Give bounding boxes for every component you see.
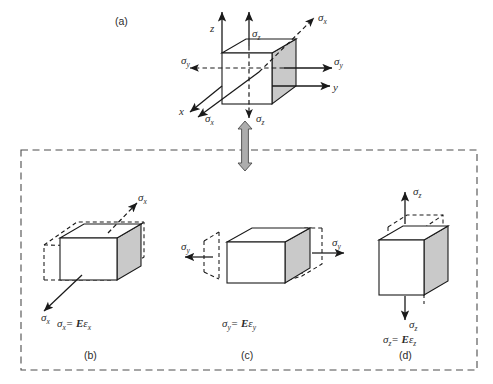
panel-b-sigma-x-upper-label: σx bbox=[138, 192, 147, 206]
panel-c-sigma-y-right-label: σy bbox=[332, 237, 341, 251]
x-axis-arrow bbox=[190, 86, 222, 112]
vertical-double-arrow-connector bbox=[238, 121, 252, 171]
panel-c-cube bbox=[185, 228, 344, 283]
panel-b-sigma-x-lower-label: σx bbox=[41, 312, 50, 326]
figure-root: (a) z y x σx σz σy σy σx σz σx σx σx= Eε… bbox=[0, 0, 493, 384]
y-axis-label: y bbox=[333, 82, 338, 93]
panel-d-label: (d) bbox=[399, 350, 412, 361]
panel-c-sigma-y-left-label: σy bbox=[181, 241, 190, 255]
panel-b-label: (b) bbox=[84, 350, 97, 361]
panel-b-cube bbox=[44, 203, 144, 311]
sigma-y-left-label: σy bbox=[181, 55, 190, 69]
sigma-y-right-label: σy bbox=[334, 56, 343, 70]
panel-d-sigma-z-top-label: σz bbox=[413, 186, 421, 200]
panel-c-label: (c) bbox=[241, 350, 253, 361]
sigma-x-bottom-left-label: σx bbox=[205, 113, 214, 127]
panel-d-sigma-z-bottom-label: σz bbox=[409, 319, 417, 333]
cube-d-front-face bbox=[379, 240, 424, 295]
panel-c-equation: σy= Eεy bbox=[222, 318, 256, 332]
z-axis-label: z bbox=[210, 23, 214, 34]
panel-d-cube bbox=[379, 192, 448, 320]
sigma-z-bottom-label: σz bbox=[256, 113, 264, 127]
sigma-x-top-right-label: σx bbox=[318, 12, 327, 26]
panel-b-equation: σx= Eεx bbox=[57, 318, 91, 332]
panel-a-label: (a) bbox=[115, 16, 128, 27]
cube-b-front-face bbox=[60, 238, 117, 280]
cube-a-front-face bbox=[222, 53, 272, 104]
sigma-z-top-label: σz bbox=[252, 28, 260, 42]
x-axis-label: x bbox=[179, 106, 184, 117]
panel-d-equation: σz= Eεz bbox=[383, 334, 416, 348]
cube-c-front-face bbox=[227, 242, 285, 283]
